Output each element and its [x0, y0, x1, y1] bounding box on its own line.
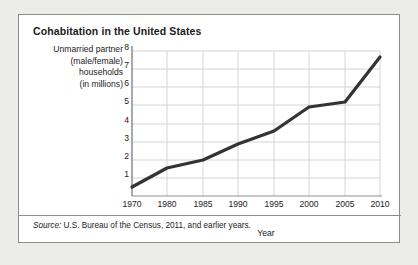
chart-svg — [19, 15, 401, 244]
source-note: Source: U.S. Bureau of the Census, 2011,… — [33, 221, 251, 230]
chart-plot-area: Unmarried partner (male/female) househol… — [19, 15, 401, 244]
x-axis-tick-label: 1990 — [218, 199, 258, 209]
x-axis-tick-label: 2010 — [360, 199, 400, 209]
x-axis-tick-label: 1985 — [183, 199, 223, 209]
source-divider — [19, 215, 401, 216]
grid-lines — [132, 51, 380, 196]
x-axis-tick-label: 1995 — [254, 199, 294, 209]
x-axis-tick-label: 1980 — [147, 199, 187, 209]
x-axis-tick-label: 1970 — [112, 199, 152, 209]
source-text: U.S. Bureau of the Census, 2011, and ear… — [61, 221, 251, 230]
figure-card: Cohabitation in the United States Unmarr… — [18, 14, 400, 243]
x-axis-tick-label: 2000 — [289, 199, 329, 209]
x-axis-tick-label: 2005 — [325, 199, 365, 209]
source-label: Source: — [33, 221, 61, 230]
data-series-line — [132, 57, 380, 187]
